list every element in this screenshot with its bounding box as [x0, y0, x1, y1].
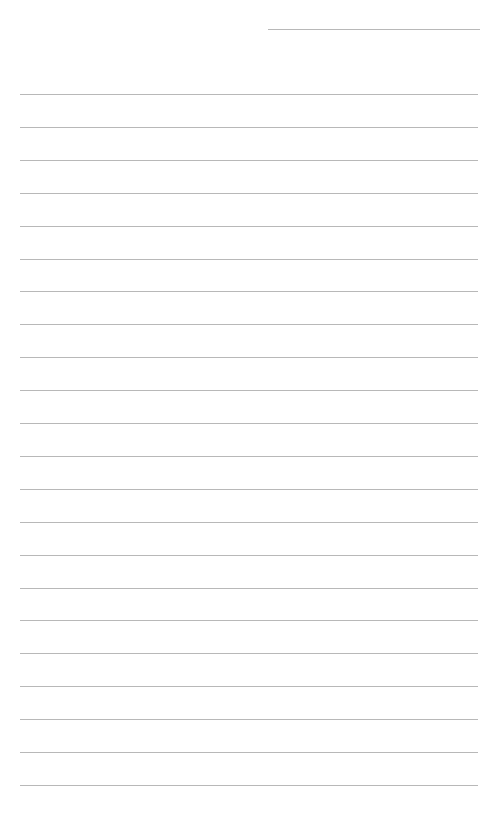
ruled-line: [20, 752, 478, 753]
ruled-line: [20, 324, 478, 325]
ruled-line: [20, 127, 478, 128]
ruled-line: [20, 456, 478, 457]
ruled-line: [20, 259, 478, 260]
ruled-line: [20, 588, 478, 589]
ruled-line: [20, 719, 478, 720]
ruled-line: [20, 522, 478, 523]
ruled-line: [20, 357, 478, 358]
ruled-line: [20, 291, 478, 292]
ruled-line: [20, 226, 478, 227]
ruled-line: [20, 686, 478, 687]
ruled-line: [20, 423, 478, 424]
ruled-line: [20, 555, 478, 556]
ruled-line: [20, 653, 478, 654]
ruled-line: [20, 489, 478, 490]
ruled-line: [20, 785, 478, 786]
ruled-line: [20, 160, 478, 161]
ruled-line: [20, 94, 478, 95]
ruled-line: [20, 390, 478, 391]
header-line: [268, 29, 480, 30]
ruled-line: [20, 193, 478, 194]
ruled-line: [20, 620, 478, 621]
